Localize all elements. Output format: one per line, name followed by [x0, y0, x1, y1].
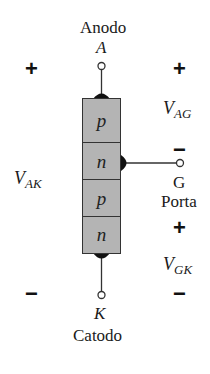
vak-label: VAK [14, 168, 42, 192]
vak-base: V [14, 168, 25, 188]
vak-sub: AK [25, 176, 42, 191]
vgk-label: VGK [163, 254, 192, 278]
cathode-symbol: K [94, 304, 105, 324]
layer-n-bottom: n [82, 216, 121, 254]
cathode-label: Catodo [73, 326, 122, 346]
vag-minus-sign: − [173, 139, 186, 161]
layer-n-top: n [82, 142, 121, 181]
vgk-plus-sign: + [173, 217, 186, 239]
vak-plus-sign: + [25, 58, 38, 80]
vag-label: VAG [163, 98, 191, 122]
layer-p-top: p [82, 98, 121, 144]
anode-label: Anodo [80, 18, 126, 38]
vgk-minus-sign: − [173, 283, 186, 305]
gate-label: Porta [161, 192, 197, 212]
gate-symbol: G [173, 173, 185, 193]
layer-p-bottom: p [82, 179, 121, 218]
vag-plus-sign: + [173, 58, 186, 80]
vgk-sub: GK [174, 262, 192, 277]
vak-minus-sign: − [25, 283, 38, 305]
vgk-base: V [163, 254, 174, 274]
vag-base: V [163, 98, 174, 118]
vag-sub: AG [174, 106, 191, 121]
anode-symbol: A [96, 38, 106, 58]
